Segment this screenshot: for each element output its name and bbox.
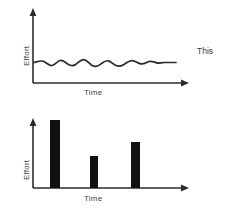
bar-burst-2 (90, 156, 98, 188)
x-axis-label-time: Time (84, 194, 102, 203)
x-axis-label-time: Time (84, 88, 102, 97)
panel-bursty-effort: Effort Time Not this (0, 108, 239, 216)
y-axis-arrowhead (30, 8, 37, 16)
y-axis-arrowhead (30, 118, 37, 126)
verdict-label-this: This (197, 46, 213, 57)
bar-burst-3 (131, 142, 140, 188)
y-axis-label-effort: Effort (22, 46, 31, 66)
y-axis-label-effort: Effort (22, 160, 31, 180)
bar-burst-1 (50, 120, 60, 188)
x-axis-arrowhead (181, 80, 189, 87)
effort-line-series (34, 60, 176, 67)
x-axis-arrowhead (181, 185, 189, 192)
panel-steady-effort: Effort Time This (0, 0, 239, 108)
